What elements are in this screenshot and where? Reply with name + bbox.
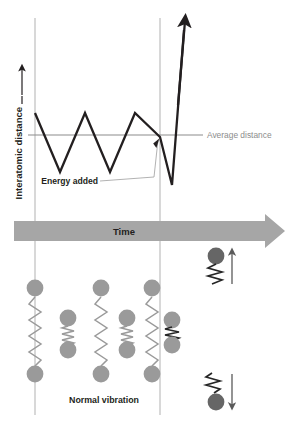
y-axis-label: Interatomic distance [13,107,24,199]
spring [95,297,107,366]
atom [93,280,110,297]
atom [119,310,136,327]
atom [144,366,161,383]
energy-added-connector [100,177,154,181]
atom [119,342,136,359]
amplified-vibration-arrow [178,21,185,105]
vibration-pairs-group [27,280,181,383]
pair-stretched-2 [93,280,110,383]
y-axis-group: Interatomic distance [13,68,24,199]
atom [60,342,77,359]
time-arrow-group: Time [14,214,285,248]
vibration-figure: Interatomic distance Average distance En… [0,0,292,431]
normal-vibration-label: Normal vibration [69,395,139,405]
time-arrow-label: Time [113,226,135,237]
atom [164,312,181,329]
vertical-guides [35,18,160,415]
pair-stretched-3 [144,280,161,383]
time-arrow-shape [14,214,285,248]
excited-atom [208,248,225,265]
energy-added-label: Energy added [41,176,98,186]
atom [164,337,181,354]
atom [60,310,77,327]
spring [146,297,158,366]
excited-atom-down-group [206,373,232,410]
pair-compressed-2 [119,310,136,359]
atom [27,366,44,383]
pair-compressed-1 [60,310,77,359]
interatomic-distance-curve [35,30,184,185]
spring-excited [206,373,220,393]
diagram-canvas: Interatomic distance Average distance En… [0,0,292,431]
excited-atom-up-group [208,248,232,284]
waveform-group [35,21,185,185]
pair-excited [164,312,181,354]
spring-excited [208,264,222,284]
atom [93,366,110,383]
average-distance-group: Average distance [28,130,272,140]
energy-added-arrowhead [153,139,159,149]
energy-added-group: Energy added [41,139,159,187]
average-distance-label: Average distance [207,130,272,140]
excited-atom [208,394,225,411]
atom [27,280,44,297]
atom [144,280,161,297]
spring [29,297,41,366]
